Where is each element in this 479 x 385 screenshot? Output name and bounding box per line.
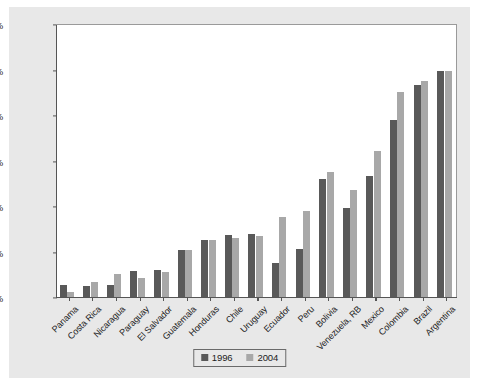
x-axis-tick-mark <box>116 297 117 301</box>
y-axis-tick-label: 60% <box>0 20 3 31</box>
bar-group <box>246 25 270 297</box>
bar-group <box>411 25 435 297</box>
bar-group <box>151 25 175 297</box>
y-axis-tick-label: 40% <box>0 111 3 122</box>
bar-2004 <box>162 272 169 297</box>
legend-label: 2004 <box>258 352 279 363</box>
x-axis-tick-mark <box>328 297 329 301</box>
y-axis-tick-label: 50% <box>0 65 3 76</box>
bar-2004 <box>185 250 192 297</box>
legend-swatch-icon <box>247 354 254 361</box>
bar-1996 <box>130 271 137 297</box>
plot-area: 0%10%20%30%40%50%60% <box>56 25 457 298</box>
bar-group <box>434 25 458 297</box>
x-axis-tick-mark <box>423 297 424 301</box>
x-axis-tick-mark <box>140 297 141 301</box>
x-axis-tick-mark <box>69 297 70 301</box>
bar-2004 <box>256 236 263 297</box>
bar-group <box>316 25 340 297</box>
bar-group <box>293 25 317 297</box>
bar-group <box>175 25 199 297</box>
bar-group <box>104 25 128 297</box>
x-axis-tick-mark <box>234 297 235 301</box>
bar-1996 <box>83 286 90 297</box>
x-axis-tick-mark <box>257 297 258 301</box>
x-axis-tick-mark <box>446 297 447 301</box>
bar-group <box>387 25 411 297</box>
x-axis-tick-label: Peru <box>296 304 316 324</box>
bar-group <box>269 25 293 297</box>
y-axis-tick-label: 20% <box>0 202 3 213</box>
y-axis-tick-mark <box>53 297 58 298</box>
bar-2004 <box>232 238 239 297</box>
bar-1996 <box>107 285 114 297</box>
bar-1996 <box>319 179 326 297</box>
bar-1996 <box>248 234 255 297</box>
bar-1996 <box>437 71 444 297</box>
x-axis-tick-mark <box>163 297 164 301</box>
bar-2004 <box>445 71 452 297</box>
bar-2004 <box>279 217 286 297</box>
bar-1996 <box>60 285 67 297</box>
x-axis-tick-mark <box>352 297 353 301</box>
x-axis-tick-mark <box>281 297 282 301</box>
bar-group <box>340 25 364 297</box>
y-axis-tick-label: 10% <box>0 247 3 258</box>
chart-legend: 19962004 <box>193 349 286 367</box>
x-axis-tick-mark <box>187 297 188 301</box>
bar-series-container <box>57 25 457 297</box>
chart-figure: 0%10%20%30%40%50%60% PanamaCosta RicaNic… <box>9 7 470 378</box>
bar-1996 <box>390 120 397 297</box>
x-axis-tick-mark <box>399 297 400 301</box>
bar-2004 <box>397 92 404 297</box>
bar-1996 <box>296 249 303 297</box>
bar-2004 <box>209 240 216 297</box>
bar-2004 <box>91 282 98 297</box>
bar-1996 <box>366 176 373 297</box>
bar-1996 <box>225 235 232 297</box>
bar-2004 <box>138 278 145 297</box>
bar-1996 <box>272 263 279 297</box>
bar-2004 <box>114 274 121 297</box>
bar-1996 <box>154 270 161 297</box>
bar-1996 <box>201 240 208 297</box>
bar-group <box>364 25 388 297</box>
legend-entry: 2004 <box>247 352 279 363</box>
legend-swatch-icon <box>201 354 208 361</box>
bar-group <box>222 25 246 297</box>
bar-2004 <box>303 211 310 297</box>
y-axis-tick-label: 30% <box>0 156 3 167</box>
bar-2004 <box>327 172 334 297</box>
x-axis-tick-mark <box>210 297 211 301</box>
bar-group <box>128 25 152 297</box>
legend-entry: 1996 <box>201 352 233 363</box>
bar-group <box>199 25 223 297</box>
bar-1996 <box>178 250 185 297</box>
bar-1996 <box>414 85 421 297</box>
x-axis-tick-mark <box>305 297 306 301</box>
bar-group <box>57 25 81 297</box>
x-axis-tick-mark <box>375 297 376 301</box>
bar-2004 <box>421 81 428 297</box>
bar-2004 <box>350 190 357 297</box>
bar-2004 <box>374 151 381 297</box>
bar-group <box>81 25 105 297</box>
x-axis-tick-mark <box>92 297 93 301</box>
x-axis-tick-label: Chile <box>224 304 245 325</box>
y-axis-tick-label: 0% <box>0 293 3 304</box>
bar-1996 <box>343 208 350 297</box>
legend-label: 1996 <box>212 352 233 363</box>
